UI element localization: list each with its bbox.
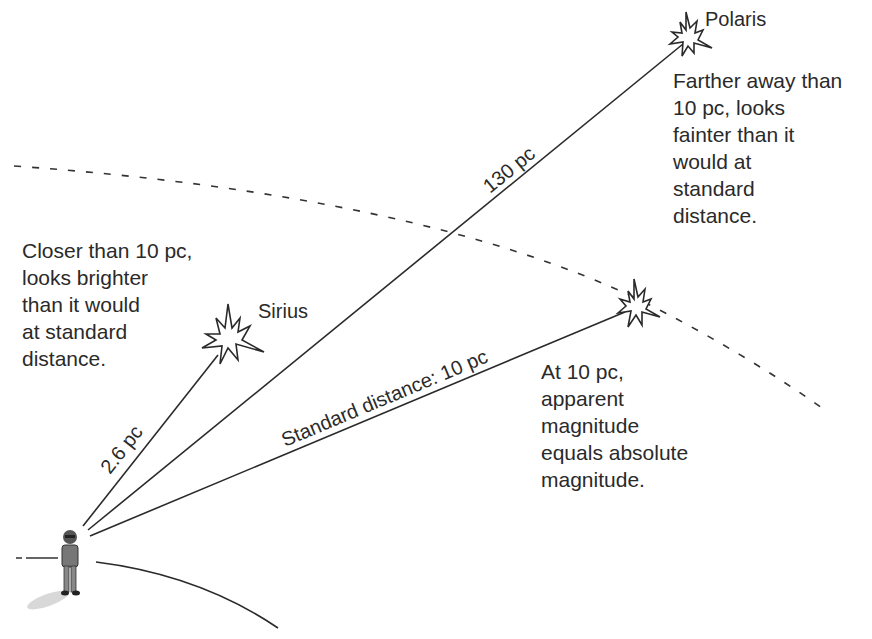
standard-note: At 10 pc, apparent magnitude equals abso… bbox=[541, 360, 688, 491]
observer-figure-icon bbox=[25, 530, 80, 613]
sirius-note: Closer than 10 pc, looks brighter than i… bbox=[22, 239, 192, 370]
polaris-note-line: standard bbox=[673, 177, 755, 200]
sirius-note-line: at standard bbox=[22, 320, 127, 343]
polaris-note-line: would at bbox=[672, 150, 751, 173]
ground-arc bbox=[96, 562, 278, 628]
polaris-note-line: fainter than it bbox=[673, 123, 795, 146]
sirius-star-icon bbox=[202, 304, 264, 364]
sirius-label: Sirius bbox=[258, 300, 308, 322]
polaris-label: Polaris bbox=[705, 8, 766, 30]
polaris-note-line: distance. bbox=[673, 204, 757, 227]
polaris-note-line: 10 pc, looks bbox=[673, 96, 785, 119]
sirius-note-line: looks brighter bbox=[22, 266, 148, 289]
sirius-note-line: distance. bbox=[22, 347, 106, 370]
sirius-note-line: than it would bbox=[22, 293, 140, 316]
standard-note-line: magnitude bbox=[541, 414, 639, 437]
standard-distance-label: Standard distance: 10 pc bbox=[278, 345, 491, 451]
standard-note-line: magnitude. bbox=[541, 468, 645, 491]
polaris-note-line: Farther away than bbox=[673, 69, 842, 92]
polaris-note: Farther away than 10 pc, looks fainter t… bbox=[672, 69, 842, 227]
standard-note-line: apparent bbox=[541, 387, 624, 410]
standard-note-line: At 10 pc, bbox=[541, 360, 624, 383]
magnitude-distance-diagram: Polaris Sirius 130 pc 2.6 pc Standard di… bbox=[0, 0, 872, 639]
sirius-distance-label: 2.6 pc bbox=[96, 421, 147, 477]
standard-star-icon bbox=[618, 279, 660, 327]
sirius-note-line: Closer than 10 pc, bbox=[22, 239, 192, 262]
standard-note-line: equals absolute bbox=[541, 441, 688, 464]
